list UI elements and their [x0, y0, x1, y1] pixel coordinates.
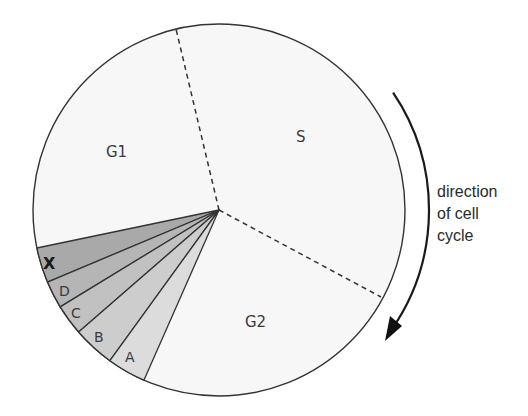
phase-label-g2: G2	[245, 313, 266, 331]
sector-label-a: A	[125, 349, 135, 365]
direction-label-line-1: direction	[437, 183, 497, 200]
direction-label-line-3: cycle	[437, 227, 474, 244]
sector-label-x: X	[43, 254, 56, 273]
cell-cycle-diagram: G1 S G2 X D C B A direction of cell cycl…	[0, 0, 528, 416]
sector-label-d: D	[59, 283, 70, 299]
sector-label-c: C	[71, 305, 81, 321]
phase-label-g1: G1	[106, 143, 127, 161]
phase-label-s: S	[296, 128, 306, 146]
sector-label-b: B	[94, 329, 104, 345]
arrowhead-icon	[385, 316, 402, 341]
direction-label-line-2: of cell	[437, 205, 479, 222]
